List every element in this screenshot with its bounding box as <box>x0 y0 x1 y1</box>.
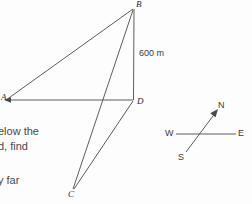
vertex-label-d: D <box>137 97 144 106</box>
body-text-line-2: d, find <box>0 141 28 152</box>
compass-label-south: S <box>178 153 184 162</box>
edge-b-d <box>134 9 135 100</box>
figure-page: A B C D 600 m N S W E elow the d, find y… <box>0 0 252 204</box>
compass-label-north: N <box>218 101 225 110</box>
compass-label-east: E <box>238 129 244 138</box>
vertex-label-c: C <box>68 190 74 199</box>
compass-north-arrowhead <box>210 109 218 117</box>
compass-south-north-axis <box>186 112 216 152</box>
compass-label-west: W <box>165 129 174 138</box>
edge-b-c <box>73 10 133 189</box>
body-text-line-3: y far <box>0 175 19 186</box>
vertex-label-b: B <box>136 0 142 9</box>
geometry-figure-canvas <box>0 0 252 204</box>
edge-d-c <box>74 101 133 189</box>
edge-a-b <box>6 9 133 100</box>
vertex-label-a: A <box>1 93 7 102</box>
measurement-label-bd: 600 m <box>139 49 164 58</box>
body-text-line-1: elow the <box>0 126 39 137</box>
